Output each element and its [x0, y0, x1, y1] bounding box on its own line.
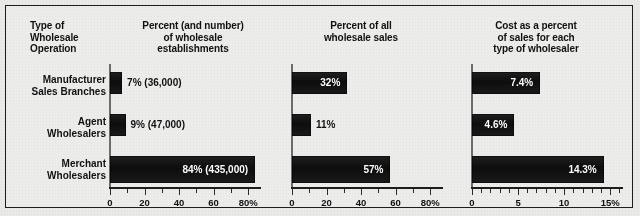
chart-panel-cost: 7.4% 4.6% 14.3% 051015%: [471, 64, 623, 204]
bar-value-label-agent-wholesalers: 9% (47,000): [131, 119, 185, 130]
bar-agent-wholesalers: [292, 114, 311, 136]
row-label-header-line-3: Operation: [30, 43, 120, 55]
axis-tick-major: [327, 189, 328, 195]
axis-tick-label: 20: [139, 197, 150, 208]
axis-tick-minor: [601, 189, 602, 193]
axis-tick-minor: [481, 189, 482, 193]
axis-tick-minor: [619, 189, 620, 193]
axis-tick-minor: [527, 189, 528, 193]
category-label-merchant-wholesalers: Merchant Wholesalers: [14, 158, 106, 181]
category-label-manufacturer-sales-branches: Manufacturer Sales Branches: [14, 74, 106, 97]
axis-tick-minor: [555, 189, 556, 193]
axis-tick-minor: [344, 189, 345, 193]
axis-tick-label: 80%: [421, 197, 440, 208]
category-label-agent-wholesalers: Agent Wholesalers: [14, 116, 106, 139]
axis-tick-minor: [162, 189, 163, 193]
bar-value-label-manufacturer-sales-branches: 32%: [320, 77, 340, 88]
axis-tick-minor: [536, 189, 537, 193]
axis-tick-major: [610, 189, 611, 195]
axis-tick-minor: [127, 189, 128, 193]
row-label-header-line-2: Wholesale: [30, 32, 120, 44]
axis-tick-label: 15%: [601, 197, 620, 208]
panel-2-title-line-1: Percent of all: [291, 20, 431, 32]
axis-tick-major: [248, 189, 249, 195]
axis-tick-major: [214, 189, 215, 195]
panel-2-title-line-2: wholesale sales: [291, 32, 431, 44]
bar-value-label-agent-wholesalers: 11%: [316, 119, 335, 130]
axis-tick-minor: [509, 189, 510, 193]
axis-tick-label: 20: [321, 197, 332, 208]
axis-tick-major: [361, 189, 362, 195]
axis-tick-minor: [592, 189, 593, 193]
panel-1-title-line-3: establishments: [118, 43, 268, 55]
axis-tick-minor: [573, 189, 574, 193]
bar-value-label-agent-wholesalers: 4.6%: [485, 119, 508, 130]
axis-tick-minor: [309, 189, 310, 193]
bar-agent-wholesalers: [110, 114, 126, 136]
panel-2-title: Percent of all wholesale sales: [291, 20, 431, 43]
axis-tick-minor: [231, 189, 232, 193]
axis-tick-minor: [378, 189, 379, 193]
category-label-line-2: Wholesalers: [14, 128, 106, 140]
axis-tick-minor: [196, 189, 197, 193]
panel-3-title-line-3: type of wholesaler: [461, 43, 611, 55]
axis-tick-major: [518, 189, 519, 195]
axis-tick-minor: [546, 189, 547, 193]
axis-tick-label: 60: [390, 197, 401, 208]
axis-tick-major: [472, 189, 473, 195]
axis-tick-label: 40: [174, 197, 185, 208]
panel-1-title-line-1: Percent (and number): [118, 20, 268, 32]
axis-tick-label: 40: [356, 197, 367, 208]
bar-value-label-manufacturer-sales-branches: 7% (36,000): [127, 77, 181, 88]
axis-tick-minor: [490, 189, 491, 193]
axis-tick-label: 80%: [239, 197, 258, 208]
axis-tick-major: [430, 189, 431, 195]
axis-tick-label: 60: [208, 197, 219, 208]
bar-manufacturer-sales-branches: [110, 72, 122, 94]
bar-value-label-manufacturer-sales-branches: 7.4%: [510, 77, 533, 88]
axis-tick-major: [396, 189, 397, 195]
bar-value-label-merchant-wholesalers: 14.3%: [568, 164, 596, 175]
panel-3-title-line-1: Cost as a percent: [461, 20, 611, 32]
panel-3-title-line-2: of sales for each: [461, 32, 611, 44]
axis-tick-minor: [413, 189, 414, 193]
value-axis-line: [109, 187, 261, 189]
axis-tick-major: [292, 189, 293, 195]
axis-tick-major: [179, 189, 180, 195]
row-label-header-line-1: Type of: [30, 20, 120, 32]
axis-tick-minor: [583, 189, 584, 193]
axis-tick-major: [145, 189, 146, 195]
category-label-line-1: Manufacturer: [14, 74, 106, 86]
panel-3-title: Cost as a percent of sales for each type…: [461, 20, 611, 55]
category-label-line-1: Agent: [14, 116, 106, 128]
row-label-column-header: Type of Wholesale Operation: [30, 20, 120, 55]
axis-tick-major: [110, 189, 111, 195]
axis-tick-major: [564, 189, 565, 195]
axis-tick-label: 0: [469, 197, 474, 208]
axis-tick-label: 0: [107, 197, 112, 208]
bar-value-label-merchant-wholesalers: 57%: [363, 164, 383, 175]
axis-tick-minor: [500, 189, 501, 193]
category-label-line-2: Wholesalers: [14, 170, 106, 182]
axis-tick-label: 0: [289, 197, 294, 208]
axis-tick-label: 10: [559, 197, 570, 208]
panel-1-title-line-2: of wholesale: [118, 32, 268, 44]
category-label-line-1: Merchant: [14, 158, 106, 170]
value-axis-line: [291, 187, 443, 189]
axis-tick-label: 5: [515, 197, 520, 208]
figure-frame: Type of Wholesale Operation Percent (and…: [5, 5, 633, 208]
category-label-line-2: Sales Branches: [14, 86, 106, 98]
chart-panel-sales: 32% 11% 57% 020406080%: [291, 64, 443, 204]
panel-1-title: Percent (and number) of wholesale establ…: [118, 20, 268, 55]
bar-value-label-merchant-wholesalers: 84% (435,000): [182, 164, 248, 175]
chart-panel-establishments: 7% (36,000) 9% (47,000) 84% (435,000) 02…: [109, 64, 261, 204]
figure-canvas: Type of Wholesale Operation Percent (and…: [0, 0, 640, 216]
